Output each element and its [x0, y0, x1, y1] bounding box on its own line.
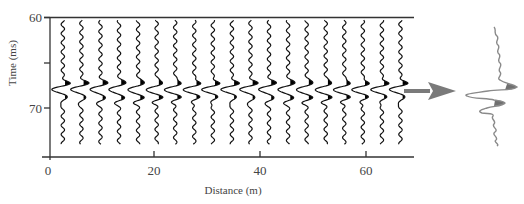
x-tick-label-40: 40 [254, 163, 267, 178]
y-tick-label-70: 70 [29, 101, 42, 116]
seismic-trace [71, 20, 89, 144]
y-tick-label-60: 60 [29, 10, 42, 25]
seismic-trace [352, 20, 369, 144]
y-axis-title: Time (ms) [6, 40, 19, 86]
seismic-trace [240, 20, 258, 144]
seismic-trace [315, 20, 332, 144]
seismic-trace [183, 20, 200, 144]
x-tick-label-60: 60 [360, 163, 373, 178]
right-arrow-icon [404, 82, 456, 100]
x-tick-label-20: 20 [148, 163, 161, 178]
seismic-trace [371, 20, 389, 144]
x-axis-title: Distance (m) [204, 184, 261, 197]
trace-positive-fill [290, 79, 295, 100]
seismic-trace [52, 20, 70, 144]
seismic-trace [109, 20, 126, 144]
enlarged-trace [466, 27, 517, 146]
seismic-trace [259, 20, 277, 144]
seismic-trace [128, 20, 144, 144]
seismic-figure: 60 70 0 20 40 60 Distance (m) Time (ms) [0, 0, 524, 204]
axes [42, 18, 414, 161]
wiggle-traces [52, 20, 408, 144]
seismic-trace [334, 20, 351, 144]
seismic-trace [278, 20, 295, 144]
seismic-trace [221, 20, 239, 144]
seismic-trace [164, 20, 181, 144]
x-tick-label-0: 0 [45, 163, 52, 178]
seismic-trace [297, 20, 313, 144]
seismic-trace [90, 20, 108, 144]
seismic-trace [202, 20, 220, 144]
seismic-trace [389, 20, 407, 144]
seismic-trace [146, 20, 163, 144]
